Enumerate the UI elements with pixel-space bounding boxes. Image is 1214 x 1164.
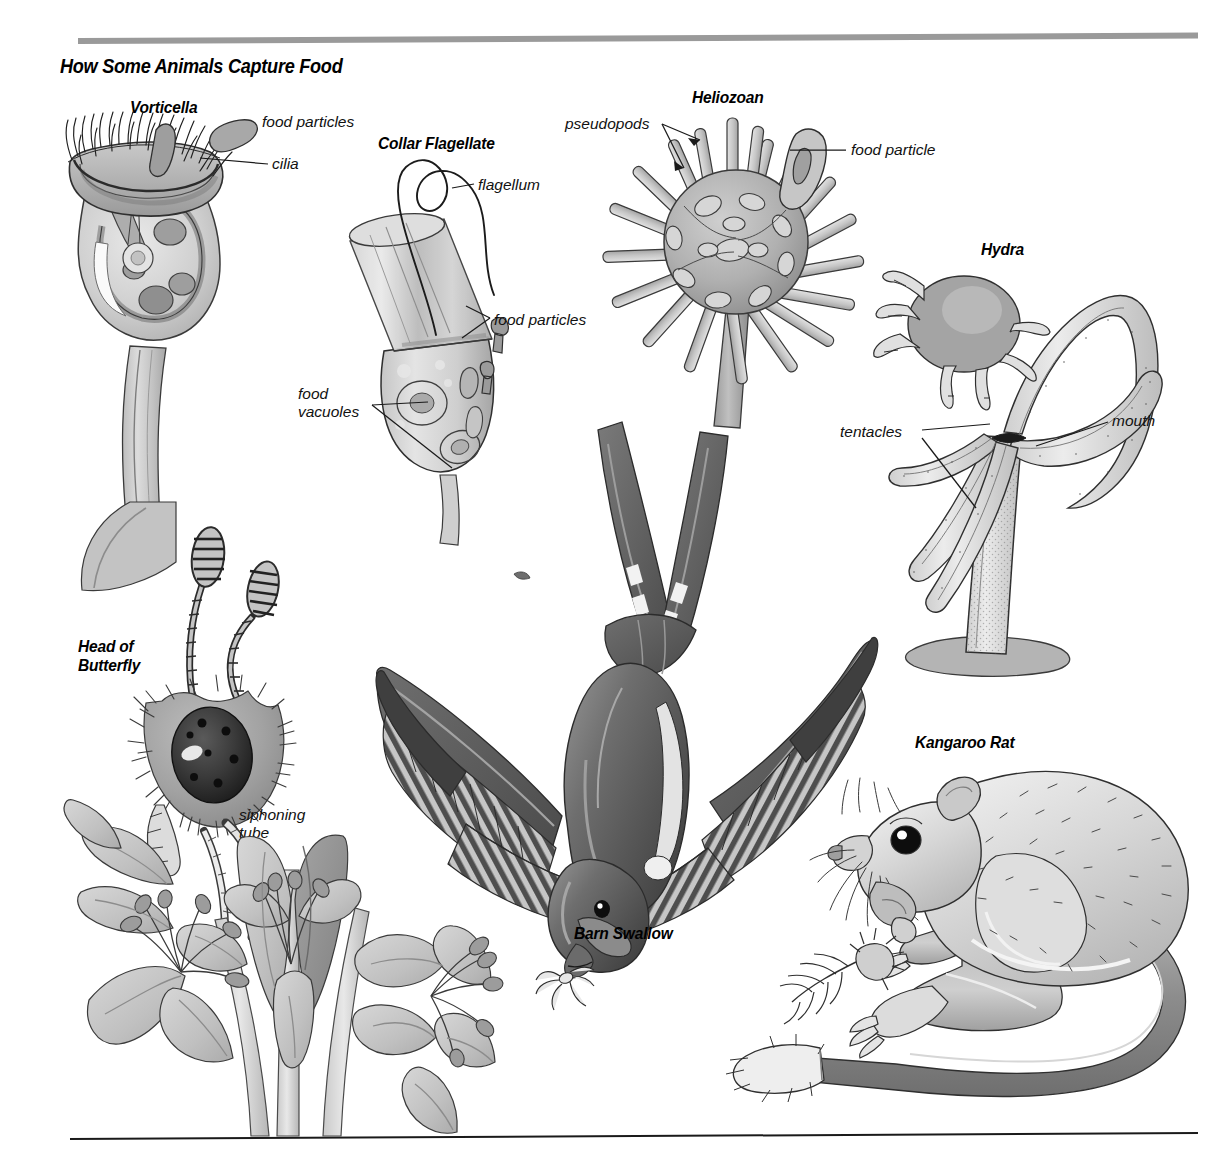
leaf-upper-left bbox=[72, 502, 182, 592]
heliozoan-food-particle-label: food particle bbox=[851, 141, 935, 159]
top-rule bbox=[78, 33, 1198, 44]
page-title: How Some Animals Capture Food bbox=[60, 55, 342, 78]
kangaroo-rat-illustration bbox=[700, 758, 1210, 1108]
barn-swallow-heading: Barn Swallow bbox=[574, 924, 673, 943]
figure-page: How Some Animals Capture Food Vorticella bbox=[0, 0, 1214, 1164]
collar-food-vacuoles-label: food vacuoles bbox=[298, 385, 378, 421]
butterfly-heading-line1: Head of bbox=[78, 637, 134, 655]
hydra-heading: Hydra bbox=[981, 240, 1024, 259]
vorticella-food-particles-label: food particles bbox=[262, 113, 354, 131]
hydra-illustration bbox=[880, 262, 1210, 692]
vorticella-heading: Vorticella bbox=[130, 98, 197, 117]
food-vacuoles-line1: food bbox=[298, 385, 328, 402]
collar-food-particles-label: food particles bbox=[494, 311, 586, 329]
heliozoan-heading: Heliozoan bbox=[692, 88, 764, 107]
vorticella-cilia-label: cilia bbox=[272, 155, 299, 173]
heliozoan-pseudopods-label: pseudopods bbox=[565, 115, 649, 133]
vorticella-illustration bbox=[60, 118, 310, 558]
vorticella-food-particle-free bbox=[205, 115, 265, 160]
food-vacuoles-line2: vacuoles bbox=[298, 403, 359, 420]
hydra-mouth-label: mouth bbox=[1112, 412, 1155, 430]
collar-flagellum-label: flagellum bbox=[478, 176, 540, 194]
collar-flagellate-heading: Collar Flagellate bbox=[378, 134, 495, 153]
kangaroo-rat-heading: Kangaroo Rat bbox=[915, 733, 1014, 752]
